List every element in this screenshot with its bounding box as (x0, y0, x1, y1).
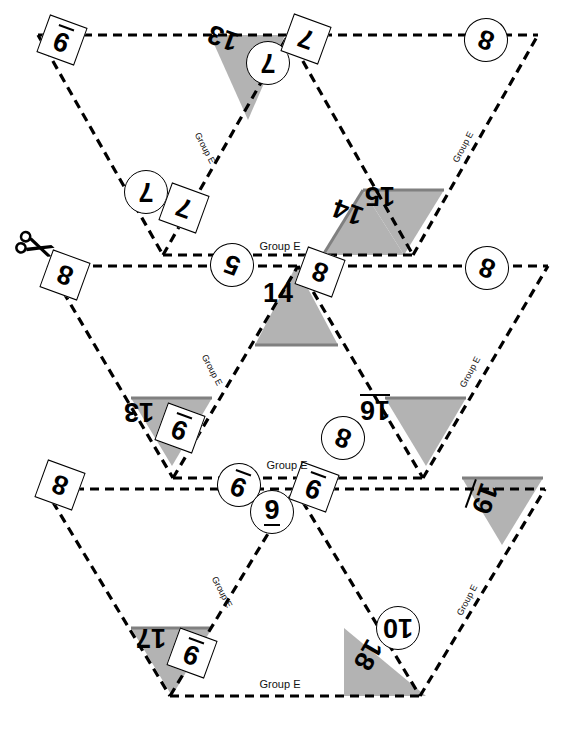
number-label-text: 9 (264, 498, 279, 527)
number-label-text: 9 (227, 469, 251, 501)
flexagon-template-sheet: 9137787715148514881391688999191791810 Gr… (0, 0, 570, 743)
band-0-diag-1 (38, 35, 163, 255)
number-label-10: 10 (376, 606, 420, 650)
number-label-9: 9 (250, 490, 294, 534)
band-1-diag-4 (423, 266, 548, 478)
number-label-text: 9 (50, 24, 74, 56)
number-label-16: 16 (352, 391, 398, 425)
number-label-text: 17 (136, 625, 166, 652)
band-1-diag-1 (48, 266, 173, 478)
template-artwork (0, 0, 570, 743)
number-label-text: 8 (48, 470, 71, 501)
number-label-text: 10 (383, 615, 413, 642)
number-label-text: 7 (172, 193, 195, 224)
number-label-text: 13 (124, 399, 154, 426)
number-label-7: 7 (124, 170, 168, 214)
number-label-text: 8 (475, 253, 498, 284)
number-label-text: 5 (220, 250, 243, 281)
number-label-text: 7 (294, 24, 317, 55)
number-label-text: 8 (308, 257, 331, 288)
number-label-13: 13 (116, 395, 162, 429)
band-2-diag-1 (45, 489, 170, 696)
group-label: Group E (260, 678, 301, 690)
number-label-text: 8 (474, 25, 497, 56)
number-label-text: 7 (138, 179, 153, 206)
number-label-text: 9 (168, 412, 192, 444)
number-label-text: 9 (302, 471, 326, 503)
number-label-text: 9 (180, 637, 204, 669)
number-label-text: 14 (329, 194, 366, 230)
number-label-text: 19 (464, 479, 501, 517)
number-label-text: 8 (331, 423, 354, 454)
number-label-text: 16 (360, 394, 390, 423)
band-0-diag-4 (413, 35, 538, 255)
number-label-text: 8 (53, 260, 76, 291)
number-label-text: 13 (204, 20, 241, 56)
number-label-17: 17 (128, 621, 174, 655)
number-label-text: 7 (260, 50, 275, 77)
group-label: Group E (260, 240, 301, 252)
number-label-text: 14 (263, 280, 293, 307)
group-label: Group E (267, 459, 308, 471)
